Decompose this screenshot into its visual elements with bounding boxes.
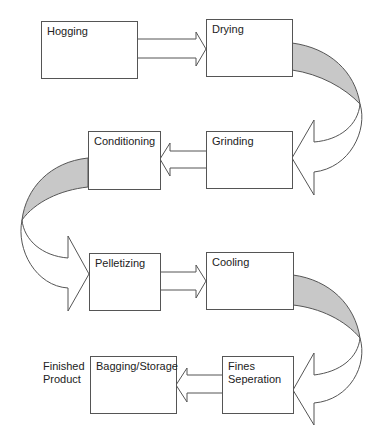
curve-shade-conditioning (22, 158, 88, 220)
finished-product-label: Finished Product (43, 360, 85, 386)
curve-shade-drying (292, 43, 360, 104)
step-pelletizing: Pelletizing (89, 253, 161, 311)
finished-product-line1: Finished (43, 360, 85, 373)
step-label-line1: Fines (228, 360, 293, 373)
arrow-grinding-to-conditioning (160, 143, 206, 176)
step-label-line2: Seperation (228, 373, 293, 386)
step-fines-separation: Fines Seperation (222, 356, 294, 414)
curve-arrow-conditioning-to-pelletizing (21, 220, 89, 311)
arrow-fines-to-bagging (176, 368, 222, 402)
step-conditioning: Conditioning (88, 131, 161, 190)
step-bagging-storage: Bagging/Storage (90, 356, 177, 414)
step-cooling: Cooling (206, 252, 294, 310)
step-label: Bagging/Storage (96, 360, 178, 372)
arrow-pelletizing-to-cooling (160, 265, 206, 298)
step-label: Pelletizing (95, 257, 145, 269)
step-grinding: Grinding (206, 131, 293, 189)
curve-shade-cooling (293, 275, 360, 338)
finished-product-line2: Product (43, 373, 85, 386)
step-label: Grinding (212, 135, 254, 147)
step-drying: Drying (206, 19, 293, 77)
step-label: Cooling (212, 256, 249, 268)
step-hogging: Hogging (41, 21, 138, 79)
curve-arrow-cooling-to-fines (293, 338, 362, 425)
step-label: Hogging (47, 25, 88, 37)
curve-arrow-drying-to-grinding (292, 104, 362, 195)
step-label: Conditioning (94, 135, 155, 147)
step-label: Drying (212, 23, 244, 35)
arrow-hogging-to-drying (137, 32, 206, 66)
